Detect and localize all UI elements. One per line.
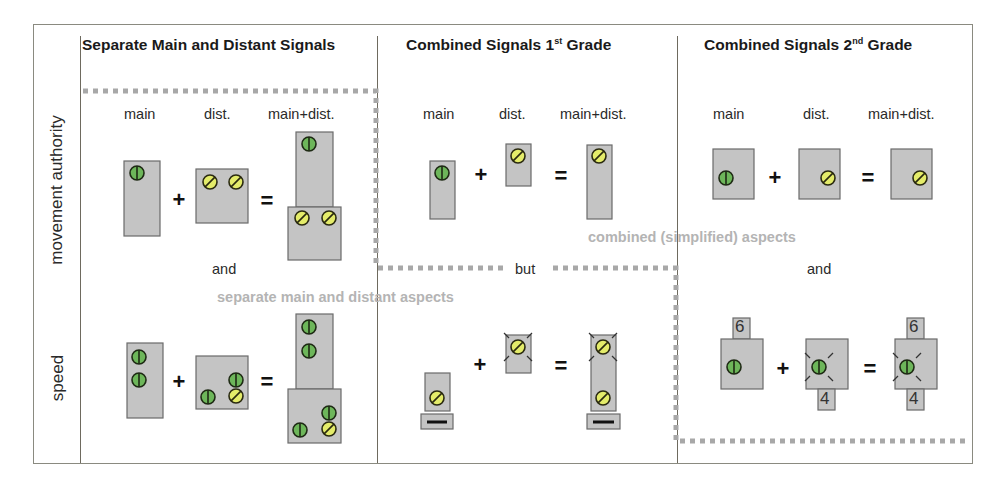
signal-main-speed-col2 [421,373,453,429]
signal-main-dist-col1 [288,132,341,260]
signal-main-col3 [713,149,754,199]
svg-text:+: + [173,369,186,394]
signal-main-dist-speed-col1 [288,314,341,443]
signal-dist-col3 [799,149,840,199]
signal-main-col1 [124,161,160,236]
svg-text:=: = [261,188,274,213]
svg-text:=: = [555,163,568,188]
signal-main-dist-col3 [891,149,932,199]
signal-diagram-graphics: + = + = + [0,0,1004,485]
signal-dist-speed-col2 [504,333,532,373]
svg-text:+: + [474,352,487,377]
svg-text:+: + [475,162,488,187]
speed-indicator-main: 6 [735,317,744,337]
signal-main-dist-speed-col2 [587,333,620,429]
svg-text:=: = [862,165,875,190]
svg-text:=: = [864,356,877,381]
signal-main-dist-col2 [587,145,612,219]
signal-main-col2 [430,161,455,219]
speed-indicator-dist: 4 [820,389,829,409]
svg-text:=: = [261,369,274,394]
signal-main-speed-col1 [127,343,163,418]
svg-text:+: + [769,165,782,190]
speed-indicator-combined-bottom: 4 [909,389,918,409]
svg-text:+: + [173,187,186,212]
signal-dist-col2 [506,144,531,186]
signal-dist-col1 [196,169,248,223]
svg-text:+: + [777,356,790,381]
signal-dist-speed-col1 [196,356,248,409]
svg-text:=: = [555,353,568,378]
dotted-border-combined [378,268,970,441]
speed-indicator-combined-top: 6 [909,317,918,337]
